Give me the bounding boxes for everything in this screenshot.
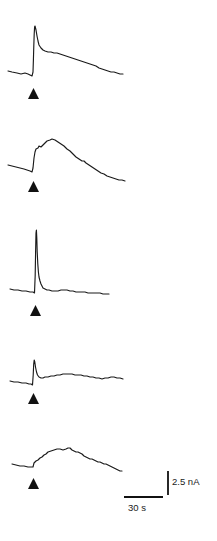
- current-trace-3: [10, 230, 109, 294]
- stimulus-marker-icon-5: [28, 478, 39, 489]
- trace-group-1: [8, 26, 123, 99]
- stimulus-marker-icon-3: [30, 305, 41, 316]
- trace-group-5: [12, 448, 122, 489]
- scale-bar-group: [124, 471, 168, 497]
- traces-canvas: [0, 0, 217, 541]
- figure-panel: 2.5 nA 30 s: [0, 0, 217, 541]
- current-trace-5: [12, 448, 122, 471]
- time-scale-label: 30 s: [128, 503, 146, 513]
- stimulus-marker-icon-2: [28, 181, 39, 192]
- trace-group-4: [10, 360, 123, 404]
- current-trace-4: [10, 360, 123, 385]
- stimulus-marker-icon-4: [28, 393, 39, 404]
- current-trace-1: [8, 26, 123, 76]
- trace-group-2: [8, 139, 125, 192]
- current-trace-2: [8, 139, 125, 181]
- amplitude-scale-label: 2.5 nA: [172, 477, 199, 487]
- stimulus-marker-icon-1: [28, 88, 39, 99]
- trace-group-3: [10, 230, 109, 316]
